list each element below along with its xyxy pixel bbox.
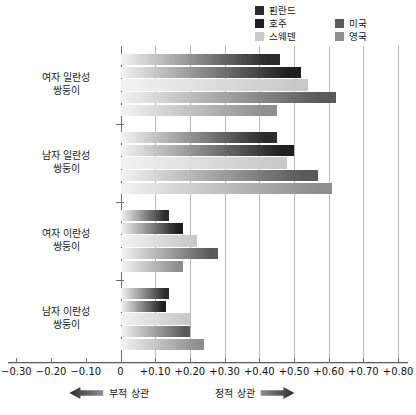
category-label-line: 여자 일란성 — [18, 72, 114, 85]
legend-swatch-icon — [335, 19, 344, 28]
x-axis-tick-label: −0.20 — [36, 366, 67, 377]
x-axis-tick — [16, 358, 17, 363]
bar-미국-0 — [121, 92, 336, 104]
bar-호주-0 — [121, 67, 301, 79]
legend-column-1: 핀란드호주스웨덴 — [255, 4, 296, 43]
category-tick — [116, 202, 124, 203]
legend-item-호주[interactable]: 호주 — [255, 17, 296, 30]
category-label-line: 쌍둥이 — [18, 319, 114, 332]
bar-호주-2 — [121, 223, 183, 235]
x-axis-tick-label: +0.30 — [209, 366, 240, 377]
category-label-line: 쌍둥이 — [18, 241, 114, 254]
legend-label: 호주 — [269, 18, 287, 29]
category-label-line: 쌍둥이 — [18, 85, 114, 98]
bar-핀란드-2 — [121, 210, 170, 222]
x-axis-tick-label: +0.20 — [175, 366, 206, 377]
x-axis-tick-label: −0.30 — [1, 366, 32, 377]
bar-스웨덴-3 — [121, 313, 190, 325]
positive-correlation-label: 정적 상관 — [209, 385, 260, 400]
x-axis-tick — [363, 358, 364, 363]
x-axis-tick — [398, 358, 399, 363]
bar-스웨덴-0 — [121, 79, 308, 91]
bar-스웨덴-2 — [121, 235, 197, 247]
legend-swatch-icon — [255, 19, 264, 28]
legend-swatch-icon — [335, 32, 344, 41]
x-axis-tick — [155, 358, 156, 363]
x-axis-tick-label: +0.60 — [313, 366, 344, 377]
legend-swatch-icon — [255, 32, 264, 41]
category-label-line: 남자 일란성 — [18, 150, 114, 163]
x-axis-tick — [190, 358, 191, 363]
legend-label: 미국 — [349, 18, 367, 29]
gridline — [398, 46, 399, 358]
x-axis-tick-label: 0 — [117, 366, 123, 377]
right-arrow-icon — [261, 387, 295, 399]
bar-영국-3 — [121, 339, 204, 351]
chart-legend: 핀란드호주스웨덴 미국영국 — [255, 4, 415, 44]
positive-correlation-annotation: 정적 상관 — [209, 385, 294, 400]
x-axis-tick-label: +0.70 — [348, 366, 379, 377]
bar-영국-2 — [121, 261, 183, 273]
bar-영국-1 — [121, 183, 333, 195]
gridline — [363, 46, 364, 358]
x-axis-tick-label: +0.10 — [140, 366, 171, 377]
left-arrow-icon — [69, 387, 103, 399]
category-label-0: 여자 일란성쌍둥이 — [18, 72, 114, 97]
legend-swatch-icon — [255, 6, 264, 15]
legend-label: 핀란드 — [269, 5, 296, 16]
bar-미국-2 — [121, 248, 218, 260]
x-axis-tick — [225, 358, 226, 363]
category-label-line: 여자 이란성 — [18, 228, 114, 241]
legend-column-2: 미국영국 — [335, 17, 367, 43]
negative-correlation-annotation: 부적 상관 — [69, 385, 154, 400]
bar-영국-0 — [121, 105, 277, 117]
x-axis-tick — [86, 358, 87, 363]
category-label-3: 남자 이란성쌍둥이 — [18, 306, 114, 331]
x-axis-tick-label: +0.50 — [279, 366, 310, 377]
x-axis-tick — [51, 358, 52, 363]
negative-correlation-label: 부적 상관 — [103, 385, 154, 400]
legend-item-핀란드[interactable]: 핀란드 — [255, 4, 296, 17]
category-label-line: 쌍둥이 — [18, 163, 114, 176]
category-label-line: 남자 이란성 — [18, 306, 114, 319]
x-axis-tick-label: −0.10 — [70, 366, 101, 377]
bar-미국-3 — [121, 326, 190, 338]
bar-핀란드-3 — [121, 288, 170, 300]
bar-호주-1 — [121, 145, 295, 157]
category-tick — [116, 280, 124, 281]
bar-핀란드-0 — [121, 54, 281, 66]
twin-correlation-bar-chart: 핀란드호주스웨덴 미국영국 −0.30−0.20−0.100+0.10+0.20… — [0, 0, 416, 415]
x-axis-tick — [294, 358, 295, 363]
x-axis-line — [8, 362, 408, 364]
bar-호주-3 — [121, 301, 166, 313]
category-tick — [116, 124, 124, 125]
legend-item-미국[interactable]: 미국 — [335, 17, 367, 30]
legend-label: 스웨덴 — [269, 31, 296, 42]
bar-스웨덴-1 — [121, 157, 288, 169]
x-axis-tick — [121, 358, 122, 363]
legend-label: 영국 — [349, 31, 367, 42]
bar-미국-1 — [121, 170, 319, 182]
x-axis-tick-label: +0.80 — [383, 366, 414, 377]
category-label-1: 남자 일란성쌍둥이 — [18, 150, 114, 175]
x-axis-tick — [259, 358, 260, 363]
x-axis-tick-label: +0.40 — [244, 366, 275, 377]
legend-item-영국[interactable]: 영국 — [335, 30, 367, 43]
category-label-2: 여자 이란성쌍둥이 — [18, 228, 114, 253]
bar-핀란드-1 — [121, 132, 277, 144]
legend-item-스웨덴[interactable]: 스웨덴 — [255, 30, 296, 43]
x-axis-tick — [329, 358, 330, 363]
